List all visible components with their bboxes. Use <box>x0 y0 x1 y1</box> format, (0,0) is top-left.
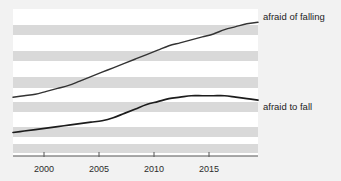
x-tick-label-2010: 2010 <box>144 164 164 174</box>
x-tick-label-2005: 2005 <box>89 164 109 174</box>
x-tick-label-2015: 2015 <box>199 164 219 174</box>
band-5 <box>13 127 258 137</box>
band-4 <box>13 102 258 112</box>
line-chart: 2000 2005 2010 2015 afraid of falling af… <box>0 0 341 181</box>
x-tick-label-2000: 2000 <box>34 164 54 174</box>
series-label-afraid-of-falling: afraid of falling <box>263 11 325 22</box>
band-6 <box>13 144 258 153</box>
chart-container: 2000 2005 2010 2015 afraid of falling af… <box>0 0 341 181</box>
band-3 <box>13 77 258 88</box>
band-1 <box>13 25 258 35</box>
series-label-afraid-to-fall: afraid to fall <box>263 101 312 112</box>
